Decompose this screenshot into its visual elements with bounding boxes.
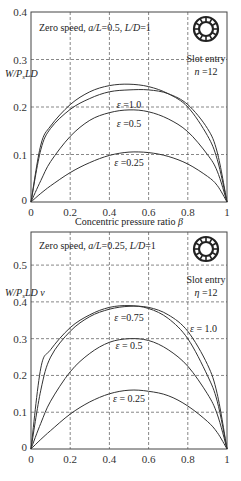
annotation-slot-count: n =12 bbox=[194, 66, 217, 77]
x-tick-label: 0.4 bbox=[103, 453, 117, 465]
series-label: ε =1.0 bbox=[117, 99, 142, 110]
x-tick-label: 0.6 bbox=[142, 453, 156, 465]
x-tick-label: 0.8 bbox=[181, 206, 195, 218]
x-tick-label: 0 bbox=[28, 453, 34, 465]
series-label: ε = 0.5 bbox=[115, 340, 142, 351]
y-tick-label: 0.3 bbox=[13, 333, 27, 345]
chart-title: Zero speed, a/L=0.5, L/D=1 bbox=[39, 22, 151, 33]
chart-title: Zero speed, a/L=0.25, L/D=1 bbox=[39, 240, 156, 251]
x-tick-label: 0.2 bbox=[63, 453, 77, 465]
y-tick-label: 0 bbox=[22, 194, 28, 206]
y-tick-label: 0.1 bbox=[13, 149, 27, 161]
series-label: ε =0.5 bbox=[117, 118, 142, 129]
x-axis-label: Concentric pressure ratio β bbox=[75, 216, 183, 227]
slot-entry-ring-icon bbox=[193, 16, 219, 42]
series-label: ε =0.75 bbox=[114, 312, 144, 323]
x-tick-label: 1 bbox=[224, 453, 230, 465]
x-tick-label: 1 bbox=[224, 206, 230, 218]
y-tick-label: 0.2 bbox=[13, 101, 27, 113]
y-tick-label: 0.3 bbox=[13, 54, 27, 66]
series-label: ε =0.25 bbox=[114, 157, 144, 168]
series-label: ε = 0.25 bbox=[113, 393, 145, 404]
y-tick-label: 0.4 bbox=[13, 6, 27, 18]
annotation-slot-count: η =12 bbox=[194, 287, 217, 298]
y-tick-label: 0.2 bbox=[13, 369, 27, 381]
y-tick-label: 0.5 bbox=[13, 259, 27, 271]
series-label: ε = 1.0 bbox=[190, 323, 217, 334]
annotation-slot-entry: Slot entry bbox=[186, 53, 225, 64]
x-tick-label: 0.8 bbox=[181, 453, 195, 465]
chart-panel-2: 00.20.40.60.8100.10.20.30.40.5ε =0.75ε =… bbox=[5, 232, 230, 465]
y-tick-label: 0.1 bbox=[13, 406, 27, 418]
chart-figure: 00.20.40.60.8100.10.20.30.4ε =0.75ε =1.0… bbox=[0, 0, 241, 481]
chart-panel-1: 00.20.40.60.8100.10.20.30.4ε =0.75ε =1.0… bbox=[5, 0, 230, 227]
slot-entry-ring-icon bbox=[193, 236, 219, 262]
x-tick-label: 0 bbox=[28, 206, 34, 218]
y-tick-label: 0 bbox=[22, 441, 28, 453]
y-axis-label: W/PsLD bbox=[5, 68, 39, 81]
annotation-slot-entry: Slot entry bbox=[186, 274, 225, 285]
